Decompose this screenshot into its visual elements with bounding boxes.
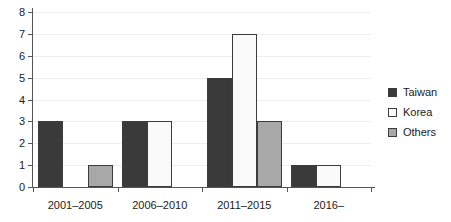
x-axis-tick-mark <box>33 187 34 192</box>
plot-area: 0123456782001–20052006–20102011–20152016… <box>33 12 371 187</box>
x-axis-tick-label: 2001–2005 <box>48 199 103 211</box>
bar-others <box>88 165 113 187</box>
bar-chart: 0123456782001–20052006–20102011–20152016… <box>0 0 451 222</box>
y-axis-tick-label: 4 <box>19 94 25 105</box>
bar-group-bars <box>33 12 118 187</box>
y-axis-tick-label: 6 <box>19 50 25 61</box>
x-axis-tick-mark <box>371 187 372 192</box>
legend-item-korea[interactable]: Korea <box>388 102 437 122</box>
bar-group: 2001–2005 <box>33 12 118 187</box>
x-axis-tick-label: 2016– <box>313 199 344 211</box>
bar-group: 2006–2010 <box>118 12 203 187</box>
legend-item-others[interactable]: Others <box>388 122 437 142</box>
x-axis-tick-mark <box>287 187 288 192</box>
y-axis-tick-label: 7 <box>19 28 25 39</box>
y-axis-tick-label: 3 <box>19 116 25 127</box>
bar-taiwan <box>38 121 63 187</box>
bar-group-bars <box>287 12 372 187</box>
bar-korea <box>147 121 172 187</box>
y-axis-tick-label: 5 <box>19 72 25 83</box>
bar-group-bars <box>202 12 287 187</box>
legend-item-taiwan[interactable]: Taiwan <box>388 82 437 102</box>
bar-korea <box>316 165 341 187</box>
x-axis-tick-mark <box>118 187 119 192</box>
bar-taiwan <box>207 78 232 187</box>
y-axis-tick-label: 0 <box>19 182 25 193</box>
bar-group: 2011–2015 <box>202 12 287 187</box>
y-axis-tick-label: 1 <box>19 160 25 171</box>
plot-wrap: 0123456782001–20052006–20102011–20152016… <box>33 12 371 187</box>
x-axis-tick-label: 2006–2010 <box>132 199 187 211</box>
legend-swatch-icon <box>388 108 397 117</box>
bar-korea <box>232 34 257 187</box>
y-axis-tick-label: 2 <box>19 138 25 149</box>
bar-taiwan <box>291 165 316 187</box>
legend-label: Korea <box>403 107 432 118</box>
bar-taiwan <box>122 121 147 187</box>
legend-swatch-icon <box>388 128 397 137</box>
legend-swatch-icon <box>388 88 397 97</box>
y-axis-tick-label: 8 <box>19 7 25 18</box>
chart-legend: TaiwanKoreaOthers <box>388 82 437 142</box>
legend-label: Taiwan <box>403 87 437 98</box>
x-axis-tick-label: 2011–2015 <box>217 199 271 211</box>
x-axis-tick-mark <box>202 187 203 192</box>
bar-others <box>257 121 282 187</box>
bar-group: 2016– <box>287 12 372 187</box>
bar-group-bars <box>118 12 203 187</box>
legend-label: Others <box>403 127 436 138</box>
